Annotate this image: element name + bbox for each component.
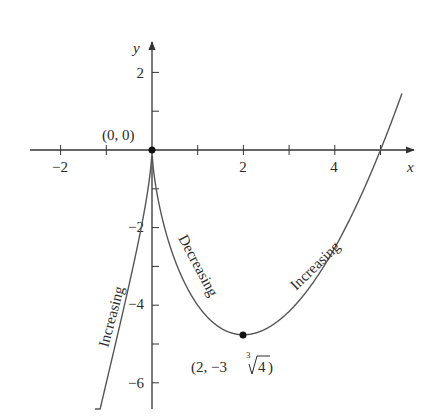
x-axis-label: x (406, 159, 414, 175)
svg-text:3: 3 (246, 350, 251, 360)
annotation-decreasing: Decreasing (175, 232, 221, 300)
origin-label: (0, 0) (102, 127, 135, 144)
local-minimum-point (240, 332, 247, 339)
minimum-label: (2, −3 3 4 ) (191, 350, 273, 376)
svg-text:(2, −3: (2, −3 (191, 359, 227, 376)
annotation-increasing-right: Increasing (287, 238, 343, 293)
function-graph: −2 2 4 2 −2 −4 −6 x y (0, 0) (2, −3 3 4 … (0, 0, 446, 418)
svg-text:4: 4 (258, 359, 266, 375)
x-tick-label: 4 (330, 159, 338, 175)
y-tick-label: −6 (128, 375, 144, 391)
origin-point (149, 147, 156, 154)
function-curve (95, 93, 402, 409)
y-tick-label: 2 (137, 65, 145, 81)
svg-text:): ) (268, 359, 273, 376)
x-tick-label: 2 (239, 159, 247, 175)
y-axis-label: y (131, 40, 140, 56)
y-axis-ticks (152, 72, 159, 382)
x-tick-label: −2 (52, 159, 68, 175)
y-tick-label: −4 (128, 296, 144, 312)
